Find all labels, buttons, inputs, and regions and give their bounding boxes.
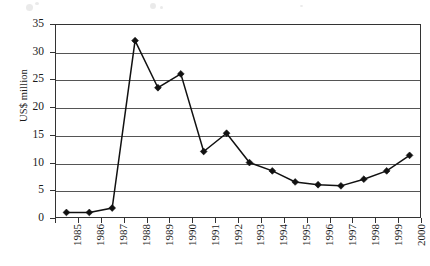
data-point-marker: [132, 37, 139, 44]
data-point-marker: [177, 70, 184, 77]
data-point-marker: [109, 205, 116, 212]
data-point-marker: [155, 84, 162, 91]
series-line-us-million: [66, 41, 409, 213]
data-point-marker: [360, 176, 367, 183]
data-point-marker: [63, 209, 70, 216]
data-point-marker: [269, 167, 276, 174]
data-series-layer: [0, 0, 430, 266]
data-point-marker: [338, 182, 345, 189]
data-point-marker: [86, 209, 93, 216]
data-point-marker: [315, 181, 322, 188]
line-chart: US$ million 05101520253035 1985198619871…: [0, 0, 430, 266]
data-point-marker: [292, 179, 299, 186]
